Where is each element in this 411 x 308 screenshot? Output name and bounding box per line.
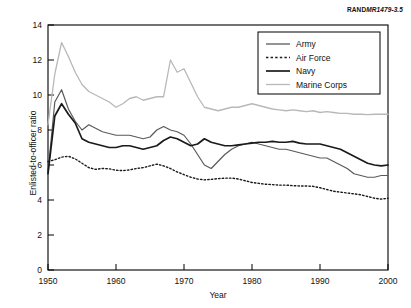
y-tick-label: 6 <box>37 160 42 170</box>
y-tick-label: 2 <box>37 230 42 240</box>
x-tick-label: 1960 <box>107 276 126 286</box>
legend-label-army: Army <box>296 39 317 49</box>
x-axis-title: Year <box>48 290 388 300</box>
y-tick-label: 12 <box>33 55 43 65</box>
y-tick-label: 14 <box>33 20 43 30</box>
legend-label-air-force: Air Force <box>296 53 331 63</box>
source-note-suffix: MR1479-3.5 <box>366 6 403 13</box>
x-tick-label: 1990 <box>311 276 330 286</box>
y-tick-label: 0 <box>37 265 42 275</box>
x-tick-label: 1980 <box>243 276 262 286</box>
legend-label-navy: Navy <box>296 66 316 76</box>
y-axis-title: Enlisted-to-officer ratio <box>28 73 38 233</box>
y-tick-label: 8 <box>37 125 42 135</box>
figure-container: RANDMR1479-3.5 Enlisted-to-officer ratio… <box>0 0 411 308</box>
source-note: RANDMR1479-3.5 <box>347 6 403 13</box>
legend-label-marine-corps: Marine Corps <box>296 80 347 90</box>
series-line-army <box>48 90 388 178</box>
source-note-prefix: RAND <box>347 6 366 13</box>
line-chart: 02468101214195019601970198019902000 Army… <box>0 0 411 308</box>
chart-legend: ArmyAir ForceNavyMarine Corps <box>258 32 380 94</box>
x-tick-label: 1950 <box>39 276 58 286</box>
x-tick-label: 1970 <box>175 276 194 286</box>
y-tick-label: 4 <box>37 195 42 205</box>
x-tick-label: 2000 <box>379 276 398 286</box>
